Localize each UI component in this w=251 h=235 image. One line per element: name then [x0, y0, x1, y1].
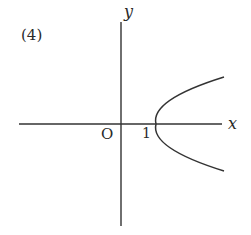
- y-axis-label: y: [124, 4, 133, 20]
- origin-label: O: [101, 127, 113, 142]
- x-axis-label: x: [228, 116, 237, 132]
- vertex-tick-label: 1: [142, 126, 151, 140]
- graph-figure: (4) y x O 1: [0, 0, 251, 235]
- panel-label: (4): [21, 28, 42, 43]
